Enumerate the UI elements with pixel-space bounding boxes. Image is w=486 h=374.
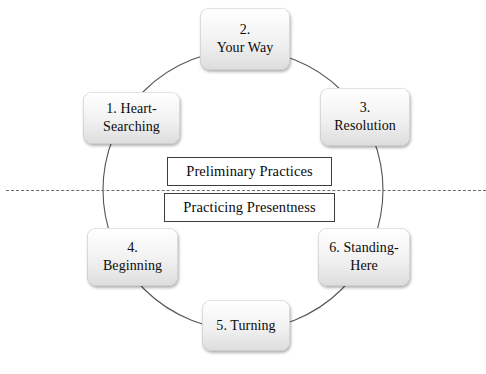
cycle-node-5-turning[interactable]: 5. Turning (202, 300, 290, 351)
cycle-node-4-beginning[interactable]: 4. Beginning (87, 228, 178, 286)
cycle-node-2-your-way[interactable]: 2. Your Way (200, 8, 290, 70)
dashed-divider-line (6, 190, 486, 191)
cycle-node-1-heart-searching[interactable]: 1. Heart- Searching (83, 92, 180, 144)
cycle-node-1-label: 1. Heart- Searching (99, 100, 164, 136)
diagram-canvas: 1. Heart- Searching 2. Your Way 3. Resol… (0, 0, 486, 374)
cycle-node-4-label: 4. Beginning (99, 239, 166, 275)
center-box-preliminary-label: Preliminary Practices (186, 163, 313, 180)
cycle-node-3-resolution[interactable]: 3. Resolution (320, 88, 410, 146)
cycle-node-6-label: 6. Standing- Here (325, 239, 403, 275)
cycle-node-5-label: 5. Turning (212, 317, 279, 335)
cycle-node-2-label: 2. Your Way (213, 21, 278, 57)
cycle-node-3-label: 3. Resolution (330, 99, 400, 135)
center-box-practicing-presentness[interactable]: Practicing Presentness (164, 193, 335, 222)
center-box-presentness-label: Practicing Presentness (183, 199, 315, 216)
cycle-node-6-standing-here[interactable]: 6. Standing- Here (318, 228, 410, 286)
center-box-preliminary-practices[interactable]: Preliminary Practices (167, 157, 332, 186)
